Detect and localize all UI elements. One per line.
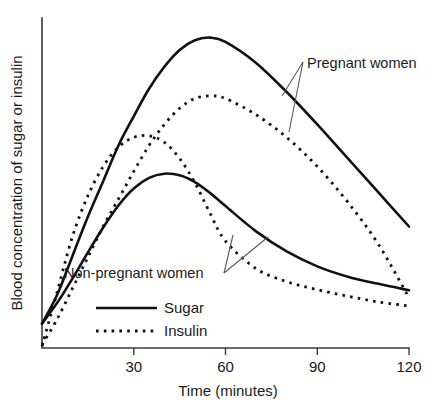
x-tick-label-90: 90 bbox=[309, 358, 326, 375]
line-chart-svg: 30 60 90 120 Time (minutes) Blood concen… bbox=[0, 0, 439, 406]
chart-figure: 30 60 90 120 Time (minutes) Blood concen… bbox=[0, 0, 439, 406]
x-tick-label-30: 30 bbox=[125, 358, 142, 375]
annotation-non-pregnant-women: Non-pregnant women bbox=[64, 265, 203, 281]
x-tick-label-60: 60 bbox=[217, 358, 234, 375]
annotation-pregnant-women: Pregnant women bbox=[307, 55, 417, 71]
legend-label-insulin: Insulin bbox=[164, 322, 207, 339]
y-axis-title: Blood concentration of sugar or insulin bbox=[8, 55, 25, 310]
x-tick-label-120: 120 bbox=[396, 358, 421, 375]
x-axis-title: Time (minutes) bbox=[178, 382, 277, 399]
legend-label-sugar: Sugar bbox=[164, 299, 204, 316]
